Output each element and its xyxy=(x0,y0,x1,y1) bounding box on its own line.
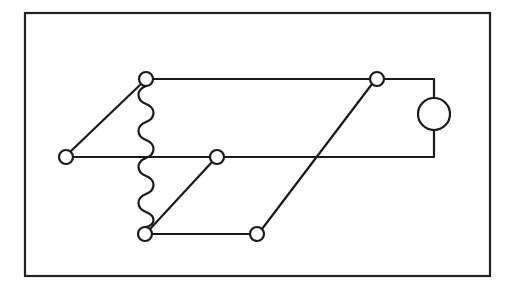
node-c xyxy=(59,150,73,164)
wire-5 xyxy=(150,162,212,229)
node-f xyxy=(250,227,264,241)
node-d xyxy=(210,150,224,164)
wire-4 xyxy=(71,84,141,151)
circuit-diagram xyxy=(0,0,514,291)
wires xyxy=(71,79,434,234)
node-a xyxy=(139,72,153,86)
node-b xyxy=(370,72,384,86)
node-e xyxy=(138,227,152,241)
wire-1 xyxy=(384,79,434,98)
wire-2 xyxy=(224,130,434,157)
meter-circle xyxy=(418,98,450,130)
